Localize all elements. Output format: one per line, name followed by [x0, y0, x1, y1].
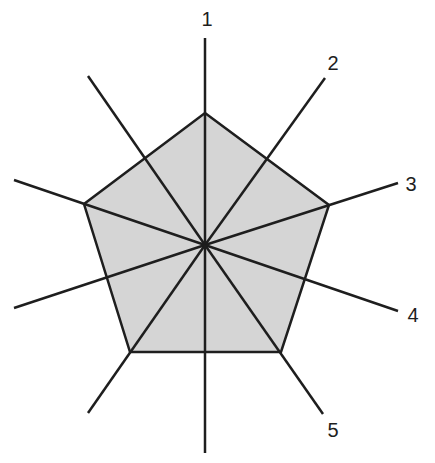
axis-label-2: 2 [327, 52, 338, 74]
pentagon-shape [84, 113, 329, 352]
axis-label-1: 1 [201, 8, 212, 30]
axis-lines [14, 38, 398, 453]
axis-label-4: 4 [407, 304, 418, 326]
radial-pentagon-diagram: 12345 [0, 0, 435, 463]
axis-label-3: 3 [405, 173, 416, 195]
axis-label-5: 5 [327, 419, 338, 441]
